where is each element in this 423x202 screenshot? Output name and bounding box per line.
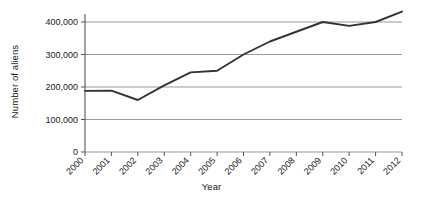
line-chart: 0100,000200,000300,000400,000 2000200120…	[0, 0, 423, 202]
y-tick-label: 200,000	[45, 82, 78, 92]
x-tick-label: 2002	[117, 155, 138, 176]
x-tick-label: 2000	[64, 155, 85, 176]
gridlines	[85, 22, 402, 120]
x-tick-label: 2003	[143, 155, 164, 176]
y-axis-title: Number of aliens	[9, 22, 20, 142]
x-tick-marks	[85, 152, 402, 156]
x-tick-label: 2005	[196, 155, 217, 176]
x-tick-label: 2004	[170, 155, 191, 176]
x-tick-label: 2001	[91, 155, 112, 176]
x-axis-title: Year	[0, 181, 423, 192]
y-tick-labels: 0100,000200,000300,000400,000	[45, 17, 78, 157]
x-tick-labels: 2000200120022003200420052006200720082009…	[64, 155, 402, 176]
x-tick-label: 2012	[381, 155, 402, 176]
x-tick-label: 2010	[328, 155, 349, 176]
chart-plot-area: 0100,000200,000300,000400,000 2000200120…	[0, 0, 423, 202]
x-tick-label: 2009	[302, 155, 323, 176]
x-tick-label: 2006	[223, 155, 244, 176]
y-tick-label: 300,000	[45, 50, 78, 60]
x-tick-label: 2008	[276, 155, 297, 176]
x-tick-label: 2007	[249, 155, 270, 176]
x-tick-label: 2011	[355, 155, 376, 176]
y-tick-label: 100,000	[45, 115, 78, 125]
y-tick-label: 400,000	[45, 17, 78, 27]
y-tick-marks	[81, 22, 85, 152]
